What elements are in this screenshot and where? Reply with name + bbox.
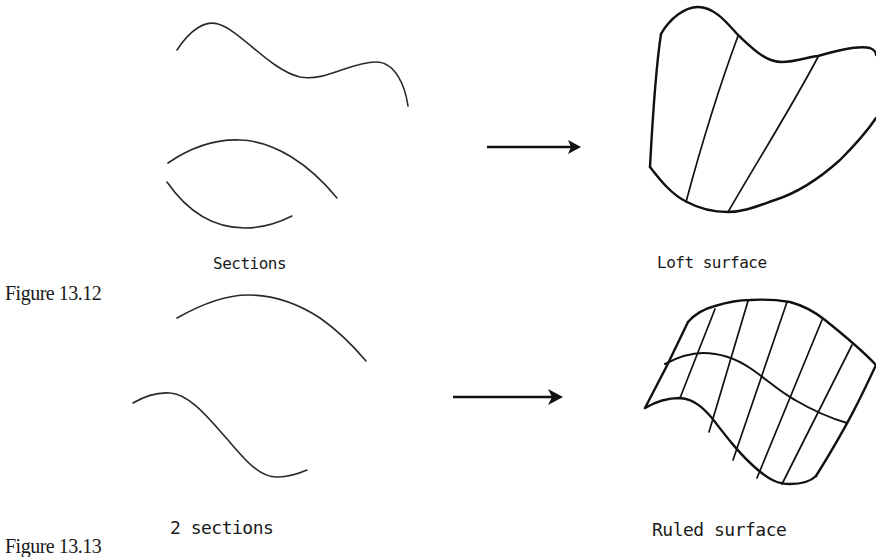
loft-left-edge: [650, 34, 661, 167]
section-curve-2: [168, 140, 337, 198]
fig-13-12-sections: [167, 23, 408, 228]
two-sections-label: 2 sections: [170, 519, 273, 537]
ruled-line-2: [709, 301, 748, 432]
ruled-line-5: [782, 345, 852, 484]
loft-surface-label: Loft surface: [657, 255, 767, 271]
ruled-line-4: [757, 320, 822, 478]
ruled-surface: [645, 300, 876, 484]
ruled-surface-label: Ruled surface: [652, 521, 786, 539]
fig-13-13-arrow: [453, 389, 563, 405]
figure-13-12-caption: Figure 13.12: [5, 283, 101, 303]
section-curve-b: [133, 393, 307, 477]
ruled-bottom-edge: [645, 398, 816, 484]
section-curve-1: [177, 23, 408, 106]
loft-surface: [650, 7, 876, 212]
section-curve-a: [177, 295, 366, 361]
loft-inner-line-2: [728, 57, 818, 212]
fig-13-12-arrow: [487, 140, 581, 154]
ruled-middle-curve: [665, 353, 847, 423]
figure-13-13-caption: Figure 13.13: [5, 536, 101, 556]
section-curve-3: [167, 182, 292, 228]
ruled-right-edge: [816, 365, 876, 476]
fig-13-13-sections: [133, 295, 366, 477]
loft-inner-line-1: [686, 36, 738, 202]
loft-bottom-edge: [650, 118, 876, 212]
loft-top-edge: [661, 7, 876, 62]
sections-label: Sections: [213, 256, 286, 272]
